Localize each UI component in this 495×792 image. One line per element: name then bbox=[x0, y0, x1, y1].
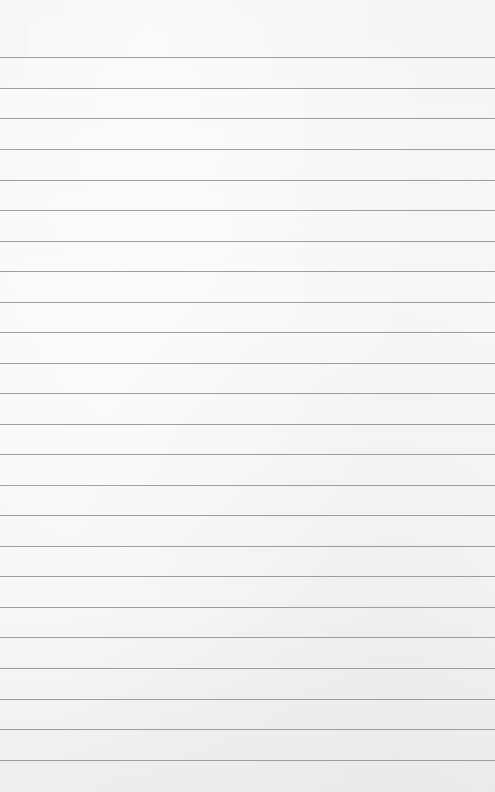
ruled-line bbox=[0, 576, 495, 577]
lined-paper-page bbox=[0, 0, 495, 792]
ruled-line bbox=[0, 180, 495, 181]
ruled-line bbox=[0, 515, 495, 516]
ruled-line bbox=[0, 149, 495, 150]
ruled-line bbox=[0, 760, 495, 761]
ruled-line bbox=[0, 88, 495, 89]
ruled-line bbox=[0, 302, 495, 303]
ruled-line bbox=[0, 57, 495, 58]
ruled-line bbox=[0, 393, 495, 394]
ruled-line bbox=[0, 118, 495, 119]
ruled-line bbox=[0, 546, 495, 547]
ruled-line bbox=[0, 271, 495, 272]
ruled-line bbox=[0, 699, 495, 700]
ruled-line bbox=[0, 241, 495, 242]
ruled-line bbox=[0, 668, 495, 669]
ruled-line bbox=[0, 729, 495, 730]
ruled-line bbox=[0, 485, 495, 486]
ruled-line bbox=[0, 607, 495, 608]
ruled-line bbox=[0, 332, 495, 333]
ruled-line bbox=[0, 424, 495, 425]
ruled-line bbox=[0, 363, 495, 364]
ruled-line bbox=[0, 637, 495, 638]
ruled-line bbox=[0, 210, 495, 211]
ruled-line bbox=[0, 454, 495, 455]
